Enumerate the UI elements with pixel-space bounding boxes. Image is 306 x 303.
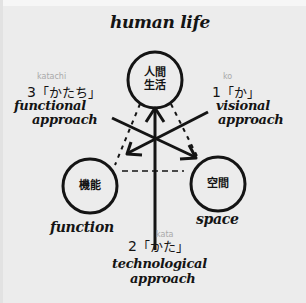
node-space-caption: space bbox=[196, 211, 239, 227]
kanji-life: 生活 bbox=[140, 79, 170, 92]
node-space-kanji: 空間 bbox=[200, 177, 236, 190]
approach-technological-line2: approach bbox=[130, 272, 196, 286]
diagram-canvas: human life 人間 生活 機能 function 空間 space ka… bbox=[0, 0, 306, 303]
diagram-title: human life bbox=[110, 12, 210, 32]
approach-visional-line2: approach bbox=[218, 113, 284, 127]
romaji-katachi: katachi bbox=[37, 72, 66, 81]
node-function-caption: function bbox=[50, 219, 114, 235]
approach-functional-line1: functional bbox=[14, 99, 86, 113]
approach-visional-line1: visional bbox=[216, 99, 270, 113]
node-function-kanji: 機能 bbox=[72, 179, 108, 192]
romaji-ko: ko bbox=[223, 72, 232, 81]
approach-functional-line2: approach bbox=[32, 113, 98, 127]
approach-number-2: 2 bbox=[128, 238, 137, 254]
approach-technological-line1: technological bbox=[112, 257, 207, 271]
approach-technological-heading: 2「かた」 bbox=[128, 236, 189, 255]
kanji-human: 人間 bbox=[140, 66, 170, 79]
kana-kata: 「かた」 bbox=[137, 239, 189, 254]
node-human-life-label: 人間 生活 bbox=[140, 66, 170, 92]
